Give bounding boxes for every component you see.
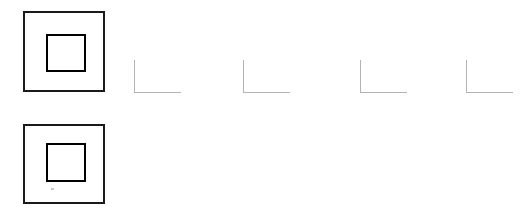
speck-mark-bottom bbox=[51, 188, 54, 190]
l-corner-mark-icon-1 bbox=[134, 60, 181, 93]
shape-layer bbox=[0, 0, 521, 213]
drawing-canvas bbox=[0, 0, 521, 213]
concentric-square-figure-top bbox=[23, 11, 105, 92]
inner-square-top bbox=[46, 34, 86, 72]
concentric-square-figure-bottom bbox=[23, 124, 105, 204]
l-corner-mark-icon-2 bbox=[243, 60, 290, 93]
l-corner-mark-icon-4 bbox=[466, 60, 513, 93]
inner-square-bottom bbox=[46, 143, 86, 182]
l-corner-mark-icon-3 bbox=[360, 60, 407, 93]
